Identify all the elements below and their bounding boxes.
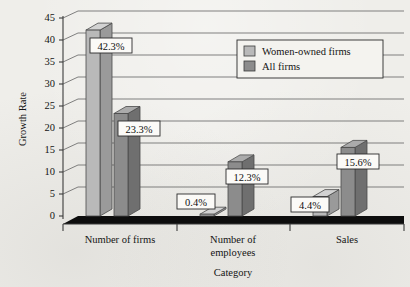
category-label-number-of-employees-line1: Number of (210, 234, 256, 245)
legend-item-all-firms[interactable]: All firms (244, 61, 300, 72)
gridline-25 (63, 99, 404, 106)
category-label-number-of-firms: Number of firms (85, 234, 156, 245)
x-axis-category-labels: Number of firms Number of employees Sale… (85, 234, 358, 258)
bar-side-face (242, 155, 254, 216)
bar-chart: 45 40 35 30 25 20 15 10 5 0 Growth Rate (0, 0, 410, 287)
y-axis-title: Growth Rate (17, 92, 28, 146)
y-tick-label-15: 15 (45, 144, 56, 155)
x-axis-title: Category (214, 267, 253, 278)
y-tick-label-40: 40 (45, 34, 56, 45)
y-tick-label-45: 45 (45, 12, 56, 23)
data-label-text: 12.3% (233, 172, 260, 183)
data-label-text: 4.4% (299, 200, 321, 211)
category-label-sales: Sales (336, 234, 358, 245)
legend-swatch-icon (244, 61, 255, 71)
data-label-12-3: 12.3% (226, 169, 268, 184)
chart-floor (63, 216, 404, 224)
data-label-0-4: 0.4% (177, 194, 215, 209)
data-label-23-3: 23.3% (118, 121, 160, 136)
y-tick-label-30: 30 (45, 78, 56, 89)
data-label-text: 23.3% (125, 124, 152, 135)
data-label-text: 0.4% (185, 197, 207, 208)
y-tick-label-0: 0 (50, 210, 55, 221)
bar-front-face (200, 214, 214, 216)
legend-label: All firms (262, 61, 300, 72)
y-tick-label-35: 35 (45, 56, 56, 67)
data-label-text: 15.6% (344, 157, 371, 168)
bar-side-face (355, 140, 367, 216)
gridline-45 (63, 11, 404, 18)
data-label-15-6: 15.6% (337, 154, 379, 169)
bar-all-firms-1 (228, 155, 254, 216)
legend-label: Women-owned firms (262, 46, 351, 57)
floor-slab (63, 216, 404, 224)
y-tick-label-20: 20 (45, 122, 56, 133)
legend-swatch-icon (244, 46, 255, 56)
y-axis: 45 40 35 30 25 20 15 10 5 0 (45, 12, 64, 221)
x-axis (63, 224, 404, 231)
data-label-text: 42.3% (97, 41, 124, 52)
bar-all-firms-2 (341, 140, 367, 216)
data-label-4-4: 4.4% (291, 197, 329, 212)
category-label-number-of-employees-line2: employees (211, 247, 256, 258)
legend[interactable]: Women-owned firms All firms (237, 40, 383, 78)
bar-front-face (86, 30, 100, 216)
data-label-42-3: 42.3% (90, 38, 132, 53)
y-tick-label-25: 25 (45, 100, 56, 111)
y-tick-label-5: 5 (50, 188, 55, 199)
y-tick-label-10: 10 (45, 166, 56, 177)
